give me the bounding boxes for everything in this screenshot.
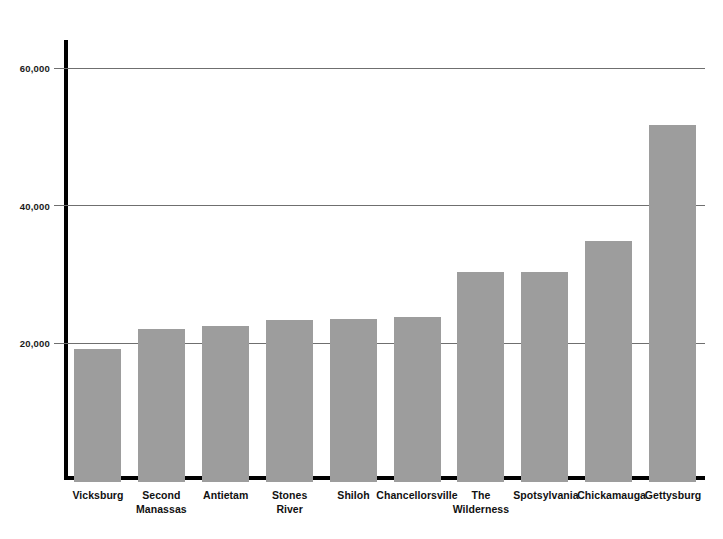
bar bbox=[330, 319, 377, 482]
y-tick-mark-60000 bbox=[54, 68, 66, 69]
bar bbox=[457, 272, 504, 482]
x-axis-label: Gettysburg bbox=[641, 489, 705, 503]
x-axis-label-line: Chickamauga bbox=[577, 489, 641, 503]
bar bbox=[74, 349, 121, 482]
plot-area: 60,000 40,000 20,000 bbox=[66, 40, 705, 480]
bar-slot bbox=[577, 40, 641, 480]
x-axis-label: Antietam bbox=[194, 489, 258, 503]
x-axis-label-line: Stones bbox=[258, 489, 322, 503]
x-axis-labels: VicksburgSecondManassasAntietamStonesRiv… bbox=[66, 489, 705, 535]
y-axis-label-60000: 60,000 bbox=[20, 63, 50, 74]
bar-slot bbox=[641, 40, 705, 480]
y-axis-label-20000: 20,000 bbox=[20, 338, 50, 349]
y-tick-mark-20000 bbox=[54, 343, 66, 344]
bar-slot bbox=[258, 40, 322, 480]
x-axis-label-line: Antietam bbox=[194, 489, 258, 503]
bar bbox=[394, 317, 441, 482]
x-axis-label: Spotsylvania bbox=[513, 489, 577, 503]
x-axis-label-line: Spotsylvania bbox=[513, 489, 577, 503]
bar bbox=[138, 329, 185, 482]
bar-slot bbox=[322, 40, 386, 480]
x-axis-label-line: Wilderness bbox=[428, 503, 533, 517]
bar-slot bbox=[386, 40, 450, 480]
bar-slot bbox=[449, 40, 513, 480]
bars-layer bbox=[66, 40, 705, 480]
bar bbox=[585, 241, 632, 482]
x-axis-label: StonesRiver bbox=[258, 489, 322, 516]
bar-slot bbox=[194, 40, 258, 480]
bar bbox=[266, 320, 313, 482]
bar-slot bbox=[130, 40, 194, 480]
bar bbox=[202, 326, 249, 482]
bar-chart: 60,000 40,000 20,000 VicksburgSecondMana… bbox=[0, 0, 723, 539]
bar bbox=[649, 125, 696, 483]
y-axis-label-40000: 40,000 bbox=[20, 200, 50, 211]
bar-slot bbox=[513, 40, 577, 480]
y-tick-mark-40000 bbox=[54, 205, 66, 206]
x-axis-label-line: Manassas bbox=[109, 503, 214, 517]
x-axis-label-line: River bbox=[258, 503, 322, 517]
bar bbox=[521, 272, 568, 482]
x-axis-label-line: Gettysburg bbox=[641, 489, 705, 503]
x-axis-label: Chickamauga bbox=[577, 489, 641, 503]
bar-slot bbox=[66, 40, 130, 480]
